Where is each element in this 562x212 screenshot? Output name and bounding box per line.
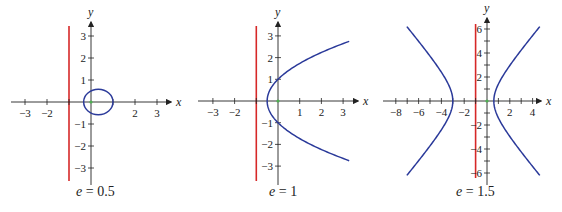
conic-plots: xy−3−223321−1−2−3 xy−3−2123321−1−2−3 xy−… [0, 0, 562, 212]
x-axis-label: x [362, 94, 369, 108]
x-tick-label: −6 [413, 106, 425, 118]
y-tick-label: 2 [268, 52, 274, 64]
x-tick-label: 3 [154, 107, 160, 119]
x-tick-label: 2 [132, 107, 138, 119]
plot-hyperbola: xy−8−6−4−224642−2−4−6 [383, 1, 552, 185]
plot-ellipse: xy−3−223321−1−2−3 [11, 5, 182, 185]
focus-point [485, 99, 488, 102]
focus-point [89, 100, 92, 103]
y-tick-label: −1 [74, 118, 86, 130]
y-tick-label: −1 [261, 117, 273, 129]
x-tick-label: 1 [297, 106, 303, 118]
y-tick-label: −2 [261, 138, 273, 150]
x-tick-label: −2 [41, 107, 53, 119]
y-tick-label: 6 [477, 23, 483, 35]
caption-value: 1.5 [477, 184, 495, 199]
y-axis-label: y [274, 5, 281, 19]
y-tick-label: 2 [81, 52, 87, 64]
x-tick-label: 2 [319, 106, 325, 118]
x-tick-label: 2 [507, 106, 513, 118]
y-tick-label: 3 [81, 30, 87, 42]
plot-parabola: xy−3−2123321−1−2−3 [198, 5, 369, 185]
x-tick-label: −4 [436, 106, 448, 118]
x-axis-label: x [545, 94, 552, 108]
caption-ellipse: e = 0.5 [76, 184, 115, 200]
x-tick-label: −2 [458, 106, 470, 118]
y-axis-label: y [87, 5, 94, 19]
caption-var: e [456, 184, 462, 199]
y-tick-label: 3 [268, 30, 274, 42]
y-tick-label: 1 [268, 73, 274, 85]
y-axis-label: y [483, 1, 490, 15]
x-tick-label: 4 [530, 106, 536, 118]
y-tick-label: 4 [477, 47, 483, 59]
x-tick-label: −8 [390, 106, 402, 118]
y-tick-label: 1 [81, 74, 87, 86]
focus-point [276, 99, 279, 102]
caption-parabola: e = 1 [269, 184, 297, 200]
y-tick-label: −2 [470, 119, 482, 131]
caption-hyperbola: e = 1.5 [456, 184, 495, 200]
x-tick-label: −3 [207, 106, 219, 118]
y-tick-label: −3 [74, 162, 86, 174]
x-axis-label: x [175, 95, 182, 109]
caption-value: 0.5 [97, 184, 115, 199]
x-tick-label: −3 [19, 107, 31, 119]
caption-var: e [76, 184, 82, 199]
x-tick-label: 3 [340, 106, 346, 118]
y-tick-label: 2 [477, 71, 483, 83]
x-tick-label: −2 [229, 106, 241, 118]
y-tick-label: −4 [470, 143, 482, 155]
y-tick-label: −3 [261, 160, 273, 172]
y-tick-label: −6 [470, 167, 482, 179]
y-tick-label: −2 [74, 140, 86, 152]
caption-var: e [269, 184, 275, 199]
caption-value: 1 [290, 184, 297, 199]
